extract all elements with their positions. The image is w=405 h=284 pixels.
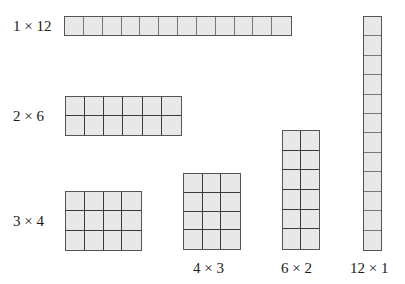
unit-square xyxy=(203,230,222,249)
unit-square xyxy=(364,17,381,36)
unit-square xyxy=(140,17,159,35)
unit-square xyxy=(221,174,240,193)
unit-square xyxy=(221,212,240,231)
unit-square xyxy=(123,116,142,135)
unit-square xyxy=(66,97,85,116)
array-grid-2x6 xyxy=(65,96,182,136)
unit-square xyxy=(301,170,319,190)
unit-square xyxy=(272,17,291,35)
unit-square xyxy=(283,229,301,249)
array-label-3x4: 3 × 4 xyxy=(13,214,44,229)
unit-square xyxy=(301,131,319,151)
array-grid-1x12 xyxy=(64,16,292,36)
unit-square xyxy=(364,95,381,114)
unit-square xyxy=(364,114,381,133)
unit-square xyxy=(364,211,381,230)
unit-square xyxy=(203,212,222,231)
unit-square xyxy=(104,97,123,116)
unit-square xyxy=(122,17,141,35)
unit-square xyxy=(184,174,203,193)
unit-square xyxy=(84,17,103,35)
unit-square xyxy=(159,17,178,35)
unit-square xyxy=(65,17,84,35)
unit-square xyxy=(364,75,381,94)
unit-square xyxy=(301,151,319,171)
unit-square xyxy=(301,229,319,249)
array-label-12x1: 12 × 1 xyxy=(350,261,388,276)
unit-square xyxy=(364,192,381,211)
unit-square xyxy=(364,133,381,152)
unit-square xyxy=(301,190,319,210)
unit-square xyxy=(283,190,301,210)
array-grid-12x1 xyxy=(363,16,382,251)
unit-square xyxy=(364,153,381,172)
array-grid-6x2 xyxy=(282,130,320,250)
unit-square xyxy=(66,231,85,250)
array-grid-3x4 xyxy=(65,191,142,251)
unit-square xyxy=(283,131,301,151)
unit-square xyxy=(122,192,141,211)
unit-square xyxy=(143,97,162,116)
unit-square xyxy=(178,17,197,35)
unit-square xyxy=(85,97,104,116)
unit-square xyxy=(104,231,123,250)
unit-square xyxy=(216,17,235,35)
unit-square xyxy=(301,210,319,230)
unit-square xyxy=(66,211,85,230)
unit-square xyxy=(66,192,85,211)
array-label-4x3: 4 × 3 xyxy=(193,261,224,276)
unit-square xyxy=(85,231,104,250)
unit-square xyxy=(283,210,301,230)
unit-square xyxy=(66,116,85,135)
unit-square xyxy=(364,231,381,250)
array-label-1x12: 1 × 12 xyxy=(13,19,51,34)
unit-square xyxy=(104,211,123,230)
unit-square xyxy=(184,212,203,231)
unit-square xyxy=(104,192,123,211)
unit-square xyxy=(85,211,104,230)
unit-square xyxy=(221,193,240,212)
unit-square xyxy=(85,116,104,135)
array-label-2x6: 2 × 6 xyxy=(13,109,44,124)
unit-square xyxy=(103,17,122,35)
unit-square xyxy=(162,97,181,116)
unit-square xyxy=(123,97,142,116)
unit-square xyxy=(122,211,141,230)
unit-square xyxy=(253,17,272,35)
array-label-6x2: 6 × 2 xyxy=(281,261,312,276)
unit-square xyxy=(203,193,222,212)
unit-square xyxy=(364,36,381,55)
unit-square xyxy=(364,172,381,191)
unit-square xyxy=(235,17,254,35)
array-grid-4x3 xyxy=(183,173,241,250)
unit-square xyxy=(197,17,216,35)
unit-square xyxy=(162,116,181,135)
unit-square xyxy=(203,174,222,193)
unit-square xyxy=(184,193,203,212)
unit-square xyxy=(85,192,104,211)
unit-square xyxy=(104,116,123,135)
unit-square xyxy=(364,56,381,75)
unit-square xyxy=(143,116,162,135)
unit-square xyxy=(122,231,141,250)
unit-square xyxy=(283,151,301,171)
unit-square xyxy=(283,170,301,190)
unit-square xyxy=(221,230,240,249)
unit-square xyxy=(184,230,203,249)
arrays-diagram: 1 × 12 2 × 6 3 × 4 4 × 3 6 × 2 12 × 1 xyxy=(0,0,405,284)
